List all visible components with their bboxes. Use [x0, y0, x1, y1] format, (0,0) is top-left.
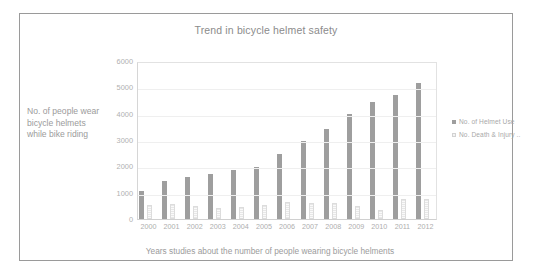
bar-helmet-use	[347, 114, 352, 219]
x-axis-tick-labels: 2000200120022003200420052006200720082009…	[137, 222, 437, 236]
y-axis-tick-label: 0	[103, 216, 133, 224]
y-axis-title: No. of people wear bicycle helmets while…	[27, 106, 103, 141]
bar-death-injury	[216, 208, 221, 219]
y-axis-tick-label: 4000	[103, 111, 133, 119]
bar-death-injury	[239, 207, 244, 219]
bar-death-injury	[378, 210, 383, 219]
gridline	[138, 142, 436, 143]
y-axis-tick-labels: 6000500040003000200010000	[100, 58, 133, 228]
legend-swatch-helmet-use-icon	[452, 120, 456, 124]
bar-death-injury	[401, 199, 406, 219]
bar-death-injury	[170, 204, 175, 219]
y-axis-tick-label: 3000	[103, 137, 133, 145]
bar-death-injury	[332, 203, 337, 219]
bar-death-injury	[355, 206, 360, 219]
bar-helmet-use	[416, 83, 421, 219]
bar-death-injury	[193, 206, 198, 219]
x-axis-tick-label: 2012	[410, 222, 440, 232]
legend-item-label: No. Death & Injury ..	[459, 131, 520, 138]
bar-helmet-use	[208, 174, 213, 219]
legend-swatch-death-injury-icon	[452, 133, 456, 137]
legend-item[interactable]: No. Death & Injury ..	[452, 129, 526, 140]
gridline	[138, 168, 436, 169]
gridline	[138, 116, 436, 117]
y-axis-tick-label: 1000	[103, 190, 133, 198]
bar-helmet-use	[162, 181, 167, 219]
bar-helmet-use	[254, 167, 259, 219]
legend-item[interactable]: No. of Helmet Use	[452, 116, 526, 127]
bar-helmet-use	[301, 141, 306, 219]
chart-title: Trend in bicycle helmet safety	[20, 24, 512, 36]
y-axis-tick-label: 5000	[103, 84, 133, 92]
gridline	[138, 195, 436, 196]
bar-helmet-use	[393, 95, 398, 219]
gridline	[138, 89, 436, 90]
plot-area	[137, 62, 437, 220]
y-axis-tick-label: 2000	[103, 163, 133, 171]
chart-legend: No. of Helmet UseNo. Death & Injury ..	[452, 116, 526, 142]
bar-helmet-use	[370, 102, 375, 219]
x-axis-title: Years studies about the number of people…	[80, 246, 460, 256]
bar-death-injury	[309, 203, 314, 219]
bar-helmet-use	[277, 154, 282, 219]
bar-helmet-use	[185, 177, 190, 219]
bar-death-injury	[424, 199, 429, 219]
bar-death-injury	[147, 205, 152, 219]
y-axis-tick-label: 6000	[103, 58, 133, 66]
bar-death-injury	[285, 202, 290, 219]
bar-death-injury	[262, 205, 267, 219]
legend-item-label: No. of Helmet Use	[459, 118, 515, 125]
chart-figure-frame: Trend in bicycle helmet safety No. of pe…	[19, 13, 513, 261]
